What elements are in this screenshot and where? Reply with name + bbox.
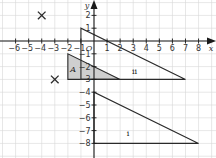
- x-tick-label: 2: [118, 44, 123, 53]
- triangle-ii-label: ii: [132, 67, 138, 76]
- x-tick-label: −5: [21, 44, 33, 53]
- x-tick-label: −3: [47, 44, 59, 53]
- x-axis-label: x: [209, 44, 214, 53]
- y-tick-label: −3: [79, 75, 91, 84]
- x-tick-label: −6: [8, 44, 20, 53]
- x-tick-label: 1: [105, 44, 110, 53]
- x-tick-label: 3: [131, 44, 136, 53]
- triangle-i-label: i: [127, 129, 130, 138]
- x-tick-label: 8: [196, 44, 201, 53]
- y-tick-label: −6: [79, 114, 91, 123]
- x-tick-label: 7: [183, 44, 188, 53]
- y-tick-label: 1: [85, 24, 90, 33]
- y-tick-label: −2: [79, 63, 91, 72]
- triangle-A-label: A: [69, 65, 76, 74]
- coordinate-grid-diagram: Aiii−6−5−4−3−2−11234567821−1−2−3−4−5−6−7…: [0, 0, 216, 158]
- origin-label: O: [86, 44, 93, 53]
- y-tick-label: 2: [85, 11, 90, 20]
- coordinate-plane: Aiii−6−5−4−3−2−11234567821−1−2−3−4−5−6−7…: [0, 0, 216, 158]
- x-tick-label: 4: [144, 44, 149, 53]
- y-tick-label: −4: [79, 88, 91, 97]
- x-tick-label: 5: [157, 44, 162, 53]
- x-tick-label: 6: [170, 44, 175, 53]
- x-tick-label: −4: [34, 44, 46, 53]
- x-tick-label: −2: [60, 44, 72, 53]
- y-tick-label: −8: [79, 139, 91, 148]
- y-tick-label: −5: [79, 101, 91, 110]
- y-tick-label: −7: [79, 127, 91, 136]
- y-axis-arrow-icon: [91, 0, 98, 9]
- y-axis-label: y: [84, 1, 90, 10]
